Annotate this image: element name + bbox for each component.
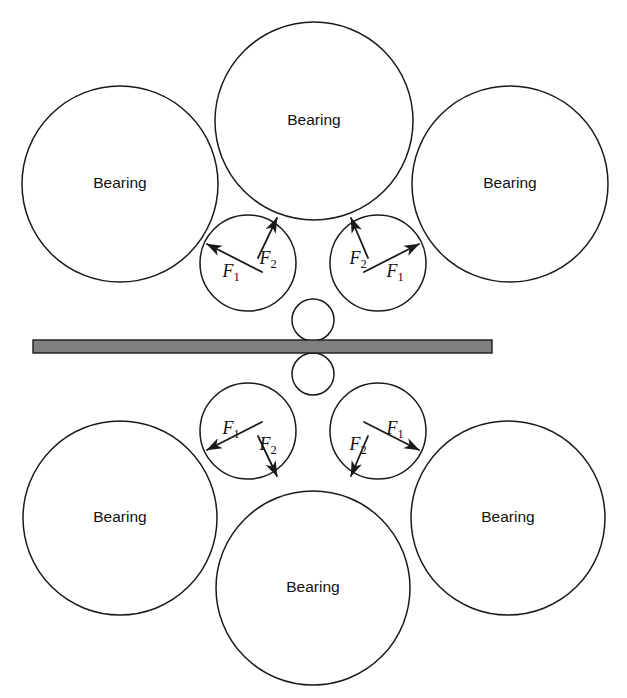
bearing-force-diagram: Bearing Bearing Bearing F1 F2 F2 F1 Bear… [0, 0, 627, 698]
circle-upper-small-roller [292, 299, 334, 341]
label-upper-right-bearing: Bearing [483, 174, 536, 191]
workpiece-bar [33, 340, 492, 353]
label-lower-right-bearing: Bearing [481, 508, 534, 525]
label-upper-left-bearing: Bearing [93, 174, 146, 191]
circle-lower-left-roller [200, 383, 296, 479]
figure-caption [0, 684, 627, 698]
label-lower-left-bearing: Bearing [93, 508, 146, 525]
circle-lower-small-roller [292, 353, 334, 395]
circle-upper-left-roller [200, 215, 296, 311]
diagram-canvas: Bearing Bearing Bearing F1 F2 F2 F1 Bear… [0, 0, 627, 698]
upper-assembly: Bearing Bearing Bearing F1 F2 F2 F1 [22, 22, 608, 341]
circle-upper-right-roller [330, 215, 426, 311]
lower-assembly: Bearing Bearing Bearing F1 F2 F2 F1 [23, 353, 605, 685]
label-upper-center-bearing: Bearing [287, 111, 340, 128]
label-lower-center-bearing: Bearing [286, 578, 339, 595]
circle-lower-right-roller [330, 383, 426, 479]
